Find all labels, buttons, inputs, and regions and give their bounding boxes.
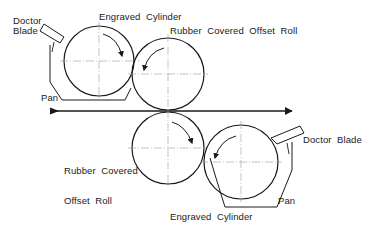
- bottom-doctor-blade-label: Doctor Blade: [303, 135, 362, 145]
- bottom-engraved-cylinder-label: Engraved Cylinder: [170, 212, 253, 222]
- bottom-offset-roll: [128, 110, 208, 188]
- rotation-arrow-clockwise-icon: [172, 122, 192, 143]
- rotation-arrow-counterclockwise-icon: [144, 48, 164, 70]
- rotation-arrow-clockwise-icon: [103, 34, 122, 56]
- bottom-pan-label: Pan: [278, 196, 295, 206]
- rotation-arrow-counterclockwise-icon: [215, 136, 236, 158]
- top-engraved-cylinder: [60, 22, 140, 100]
- label-line: Offset Roll: [64, 196, 138, 206]
- bottom-offset-roll-label: Rubber Covered Offset Roll: [64, 146, 138, 216]
- web-arrow: [50, 108, 292, 115]
- label-line: Rubber Covered: [64, 166, 138, 176]
- web-tail-icon: [50, 108, 59, 115]
- top-offset-roll-label: Rubber Covered Offset Roll: [170, 26, 297, 36]
- top-offset-roll: [128, 34, 208, 112]
- top-doctor-blade-label: Doctor Blade: [13, 16, 42, 36]
- top-pan: [50, 45, 131, 100]
- top-engraved-cylinder-label: Engraved Cylinder: [99, 12, 182, 22]
- top-doctor-blade: [40, 24, 64, 52]
- bottom-engraved-cylinder: [200, 121, 282, 202]
- top-pan-label: Pan: [41, 93, 58, 103]
- label-line: Blade: [13, 26, 42, 36]
